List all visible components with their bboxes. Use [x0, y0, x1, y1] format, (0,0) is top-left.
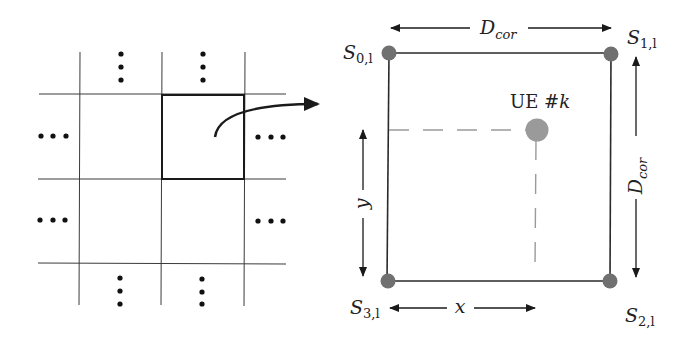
node-s1 [604, 47, 619, 62]
vertical-ellipsis-top-right [200, 51, 205, 82]
ue-projection-vertical [535, 140, 536, 268]
label-dcor-right: Dcor [624, 157, 650, 195]
label-dcor-top: Dcor [479, 16, 517, 42]
horizontal-ellipsis-low-right [255, 218, 285, 223]
highlighted-cell [162, 95, 244, 179]
label-s2: S2,l [625, 304, 655, 329]
label-x: x [455, 295, 466, 317]
horizontal-ellipsis-mid-left [38, 133, 68, 138]
vertical-ellipsis-bottom-left [117, 275, 122, 306]
label-y: y [350, 198, 372, 210]
horizontal-ellipsis-mid-right [255, 134, 285, 139]
label-s1: S1,l [627, 26, 657, 51]
zoom-arrow-icon [215, 104, 318, 137]
node-s2 [603, 274, 618, 289]
cell-edge-left [387, 53, 389, 281]
grid-hline-3 [38, 263, 286, 264]
diagram-canvas: S0,l S1,l S2,l S3,l UE #k Dcor Dcor y x [0, 0, 687, 344]
node-s3 [381, 274, 396, 289]
vertical-ellipsis-bottom-right [199, 276, 204, 306]
ue-node [526, 119, 549, 142]
expanded-cell [387, 53, 611, 281]
horizontal-ellipsis-low-left [37, 217, 67, 222]
label-ue: UE #k [510, 91, 570, 112]
label-s3: S3,l [350, 296, 380, 321]
cell-edge-right [610, 53, 611, 281]
label-s0: S0,l [343, 41, 373, 66]
vertical-ellipsis-top-left [118, 51, 123, 82]
node-s0 [382, 46, 397, 61]
